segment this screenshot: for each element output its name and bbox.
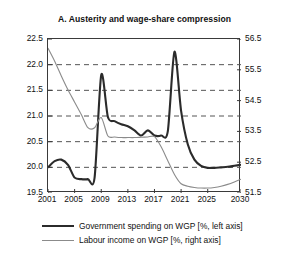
plot-area [47, 38, 240, 192]
y-axis-left-tick-label: 20.5 [3, 136, 43, 146]
legend-item: Government spending on WGP [%, left axis… [0, 219, 289, 233]
y-axis-right-tick-label: 53.5 [245, 125, 287, 135]
x-axis-tick-label: 2009 [91, 194, 110, 204]
y-axis-left-tick-label: 22.5 [3, 33, 43, 43]
x-axis-tick-label: 2030 [231, 194, 250, 204]
plot-svg [48, 39, 241, 193]
x-axis-tick-label: 2025 [197, 194, 216, 204]
legend-swatch-gov [42, 225, 74, 227]
y-axis-right-tick-label: 52.5 [245, 156, 287, 166]
x-axis-tick-label: 2017 [144, 194, 163, 204]
y-axis-left-tick-label: 22.0 [3, 59, 43, 69]
chart-legend: Government spending on WGP [%, left axis… [0, 219, 289, 247]
y-axis-left-tick-label: 21.5 [3, 84, 43, 94]
x-axis-tick-label: 2021 [171, 194, 190, 204]
x-axis-tick-label: 2005 [64, 194, 83, 204]
chart-container: A. Austerity and wage-share compression … [0, 0, 289, 259]
chart-title: A. Austerity and wage-share compression [0, 14, 289, 24]
y-axis-right-tick-label: 56.5 [245, 33, 287, 43]
y-axis-left-tick-label: 21.0 [3, 110, 43, 120]
x-axis-tick-label: 2001 [38, 194, 57, 204]
legend-label: Government spending on WGP [%, left axis… [79, 221, 243, 231]
y-axis-left-tick-label: 20.0 [3, 161, 43, 171]
legend-label: Labour income on WGP [%, right axis] [79, 235, 221, 245]
y-axis-right-tick-label: 51.5 [245, 187, 287, 197]
series-line-government-spending [48, 52, 241, 185]
x-axis-tick-label: 2013 [118, 194, 137, 204]
y-axis-right-tick-label: 55.5 [245, 64, 287, 74]
y-axis-right-tick-label: 54.5 [245, 95, 287, 105]
legend-swatch-lab [42, 240, 74, 241]
legend-item: Labour income on WGP [%, right axis] [0, 233, 289, 247]
